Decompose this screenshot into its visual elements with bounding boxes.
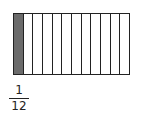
numerator: 1	[15, 84, 23, 97]
unshaded-part	[111, 14, 121, 74]
fraction-label: 1 12	[8, 84, 30, 113]
unshaded-part	[43, 14, 53, 74]
unshaded-part	[91, 14, 101, 74]
unshaded-part	[62, 14, 72, 74]
unshaded-part	[33, 14, 43, 74]
shaded-part	[14, 14, 24, 74]
unshaded-part	[82, 14, 92, 74]
unshaded-part	[53, 14, 63, 74]
unshaded-part	[24, 14, 34, 74]
unshaded-part	[120, 14, 129, 74]
unshaded-part	[72, 14, 82, 74]
unshaded-part	[101, 14, 111, 74]
denominator: 12	[11, 100, 26, 113]
fraction-bar	[13, 13, 130, 75]
